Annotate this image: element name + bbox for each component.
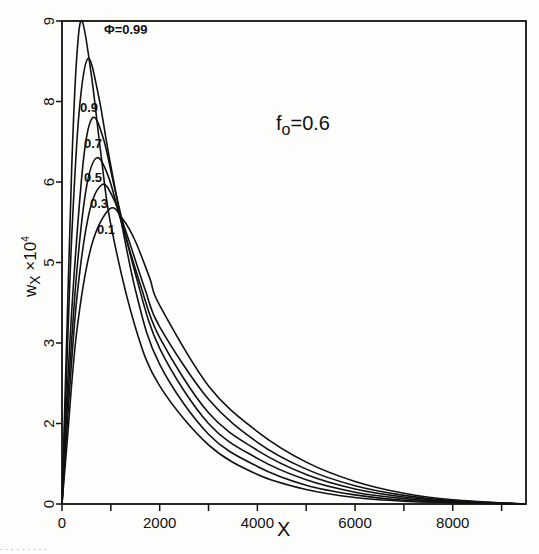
curve-0.7 <box>62 117 526 504</box>
f0-annotation: fo=0.6 <box>276 112 330 139</box>
curve-label: 0.3 <box>90 196 108 211</box>
cropped-caption-text: · · · · · · · · · <box>0 544 539 554</box>
axis-ticks: 020004000600080000235689 <box>40 17 502 531</box>
x-tick-label: 4000 <box>241 514 274 531</box>
y-tick-label: 8 <box>40 97 57 105</box>
curve-label: 0.1 <box>97 222 115 237</box>
chart-plot-area: 020004000600080000235689 <box>0 0 539 554</box>
curve-0.1 <box>62 208 526 504</box>
curve-label: 0.5 <box>84 170 102 185</box>
y-tick-label: 3 <box>40 339 57 347</box>
y-tick-label: 6 <box>40 178 57 186</box>
curve-0.5 <box>62 158 526 504</box>
curve-label: 0.7 <box>84 136 102 151</box>
curve-label: 0.9 <box>80 100 98 115</box>
x-tick-label: 2000 <box>143 514 176 531</box>
x-tick-label: 0 <box>58 514 66 531</box>
x-tick-label: 6000 <box>338 514 371 531</box>
x-axis-label: X <box>277 518 290 541</box>
y-axis-label: wX ×104 <box>20 237 44 297</box>
y-tick-label: 2 <box>40 419 57 427</box>
x-tick-label: 8000 <box>436 514 469 531</box>
y-tick-label: 0 <box>40 500 57 508</box>
curve-label: Φ=0.99 <box>104 22 148 37</box>
chart-curves <box>62 21 526 504</box>
y-tick-label: 9 <box>40 17 57 25</box>
